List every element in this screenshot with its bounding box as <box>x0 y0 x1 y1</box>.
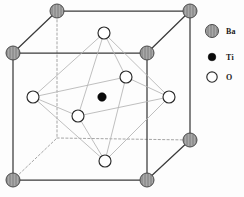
ti-atom <box>98 93 106 101</box>
ti-sphere-icon <box>208 53 216 61</box>
ba-atom <box>6 173 20 187</box>
ba-sphere-icon <box>6 173 20 187</box>
octahedron-edge <box>33 97 78 116</box>
legend-label-ti: Ti <box>226 53 234 62</box>
ba-atom <box>183 133 197 147</box>
cube-edge <box>13 11 57 53</box>
unit-cell-diagram: BaTiO <box>0 0 244 197</box>
octahedron-edge <box>104 33 169 97</box>
octahedron-edge <box>78 33 104 116</box>
o-sphere-icon <box>163 91 175 103</box>
o-sphere-icon <box>99 155 111 167</box>
o-sphere-icon <box>72 110 84 122</box>
ti-sphere-icon <box>98 93 106 101</box>
ba-atom <box>140 46 154 60</box>
octahedron-edge <box>105 97 169 161</box>
o-atom <box>163 91 175 103</box>
ba-sphere-icon <box>140 46 154 60</box>
cube-edge <box>147 11 190 53</box>
octahedron-edge <box>33 97 105 161</box>
o-atom <box>98 27 110 39</box>
o-atom <box>27 91 39 103</box>
o-sphere-icon <box>120 71 132 83</box>
legend-item-ba: Ba <box>206 25 236 38</box>
legend-label-ba: Ba <box>226 27 236 36</box>
ba-atom <box>140 173 154 187</box>
cube-edge <box>147 140 190 180</box>
octahedron-edge <box>78 97 169 116</box>
octahedron-edge <box>33 33 104 97</box>
ba-sphere-icon <box>206 25 219 38</box>
cube-hidden-edge <box>57 138 190 140</box>
o-sphere-icon <box>27 91 39 103</box>
cube-hidden-edge <box>13 138 57 180</box>
o-atom <box>72 110 84 122</box>
o-sphere-icon <box>207 72 217 82</box>
crystal-structure-figure: BaTiO <box>0 0 244 197</box>
octahedron-edge <box>33 77 126 97</box>
ba-sphere-icon <box>6 46 20 60</box>
legend-item-o: O <box>207 72 233 82</box>
legend-item-ti: Ti <box>208 53 234 62</box>
ba-atom <box>50 4 64 18</box>
o-sphere-icon <box>98 27 110 39</box>
ba-sphere-icon <box>50 4 64 18</box>
octahedron-edge <box>105 77 126 161</box>
ba-sphere-icon <box>183 4 197 18</box>
legend: BaTiO <box>206 25 236 83</box>
legend-label-o: O <box>226 73 232 82</box>
ba-atom <box>6 46 20 60</box>
ba-sphere-icon <box>140 173 154 187</box>
ba-atom <box>183 4 197 18</box>
octahedron-edge <box>104 33 126 77</box>
ti-atoms-group <box>98 93 106 101</box>
o-atom <box>99 155 111 167</box>
o-atom <box>120 71 132 83</box>
ba-sphere-icon <box>183 133 197 147</box>
